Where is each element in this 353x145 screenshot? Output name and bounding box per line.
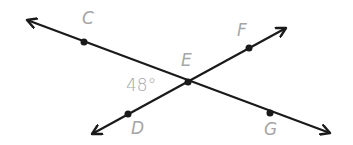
point-e [185, 79, 192, 86]
point-f [246, 45, 253, 52]
point-c [81, 39, 88, 46]
point-d [125, 111, 132, 118]
label-d: D [131, 120, 144, 137]
label-f: F [237, 22, 247, 39]
diagram-canvas: C F E D G 48° [0, 0, 353, 145]
label-c: C [82, 10, 94, 27]
point-g [267, 110, 274, 117]
diagram-svg [0, 0, 353, 145]
angle-label: 48° [126, 77, 156, 94]
line-cg [27, 20, 330, 133]
label-e: E [181, 52, 192, 69]
label-g: G [264, 121, 277, 138]
